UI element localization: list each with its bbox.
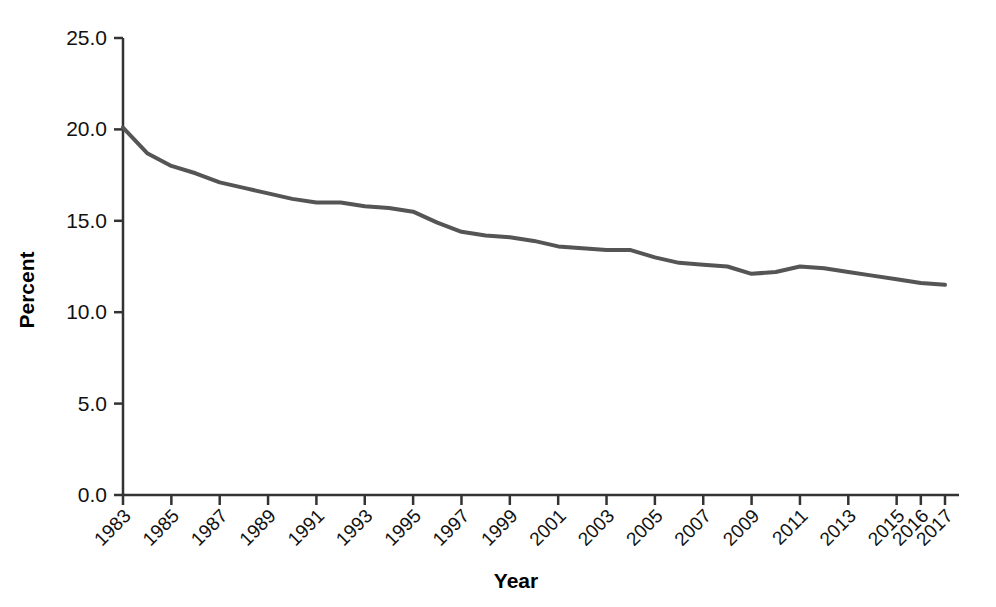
x-tick-label: 1987 (187, 505, 232, 550)
x-axis: 1983198519871989199119931995199719992001… (90, 495, 959, 550)
x-tick-label: 2009 (719, 505, 764, 550)
x-tick-label: 1989 (235, 505, 280, 550)
x-tick-label: 1985 (138, 505, 183, 550)
x-tick-label: 2013 (815, 505, 860, 550)
x-tick-label: 2011 (768, 505, 812, 549)
percent-trend-line (123, 128, 945, 285)
y-tick-label: 15.0 (66, 209, 107, 232)
y-tick-label: 25.0 (66, 26, 107, 49)
y-tick-label: 5.0 (78, 392, 107, 415)
x-tick-label: 2003 (574, 505, 619, 550)
x-tick-label: 1993 (332, 505, 377, 550)
x-tick-label: 2007 (670, 505, 715, 550)
x-tick-label: 1991 (283, 505, 328, 550)
line-chart: 0.05.010.015.020.025.0 19831985198719891… (0, 0, 996, 607)
y-tick-label: 10.0 (66, 300, 107, 323)
x-tick-label: 2005 (622, 505, 667, 550)
y-tick-label: 20.0 (66, 117, 107, 140)
x-tick-label: 1999 (477, 505, 522, 550)
x-tick-label: 1995 (380, 505, 425, 550)
x-tick-label: 1983 (90, 505, 135, 550)
x-tick-label: 1997 (429, 505, 474, 550)
chart-canvas: 0.05.010.015.020.025.0 19831985198719891… (0, 0, 996, 607)
y-tick-label: 0.0 (78, 483, 107, 506)
y-axis-title: Percent (15, 251, 38, 328)
data-series-percent (123, 128, 945, 285)
x-axis-title: Year (494, 569, 538, 592)
x-tick-label: 2001 (525, 505, 570, 550)
y-axis: 0.05.010.015.020.025.0 (66, 26, 123, 506)
